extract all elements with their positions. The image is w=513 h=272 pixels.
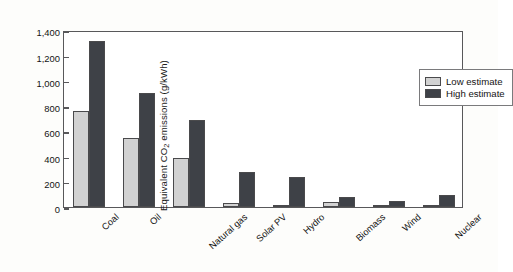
y-axis-tick-mark [64,208,69,209]
x-axis-label: Nuclear [453,212,484,241]
bar-low-estimate [123,138,139,207]
legend-label-low: Low estimate [446,76,503,87]
bar-high-estimate [89,41,105,207]
chart-legend: Low estimate High estimate [419,69,513,106]
legend-swatch-low-icon [425,77,441,86]
bar-group [423,32,455,207]
plot-area: Equivalent CO2 emissions (g/kWh) 0200400… [63,31,463,208]
y-axis-tick-label: 800 [44,103,64,114]
bar-group [173,32,205,207]
bar-group [73,32,105,207]
y-axis-tick: 400 [44,149,64,167]
bar-group [123,32,155,207]
y-axis-tick-label: 1,200 [37,53,64,64]
x-axis-label: Solar PV [254,212,288,244]
bars-layer [64,32,462,207]
bar-group [373,32,405,207]
y-axis-tick-label: 1,000 [37,78,64,89]
bar-high-estimate [189,120,205,207]
y-axis-tick-label: 1,400 [37,27,64,38]
y-axis-tick: 1,000 [37,74,64,92]
x-axis-label: Natural gas [207,212,249,251]
y-axis-tick-label: 600 [44,128,64,139]
bar-high-estimate [239,172,255,207]
legend-item-high: High estimate [425,88,505,99]
bar-low-estimate [73,111,89,207]
y-axis-tick: 0 [55,200,64,218]
x-axis-label: Biomass [354,212,387,243]
bar-high-estimate [289,177,305,207]
bar-low-estimate [273,205,289,207]
bar-low-estimate [423,205,439,207]
bar-high-estimate [139,93,155,207]
bar-high-estimate [439,195,455,207]
y-axis-tick: 600 [44,124,64,142]
bar-high-estimate [339,197,355,207]
y-axis-tick: 800 [44,99,64,117]
bar-low-estimate [323,202,339,207]
y-axis-tick: 200 [44,175,64,193]
bar-high-estimate [389,201,405,207]
y-axis-tick: 1,200 [37,48,64,66]
bar-group [273,32,305,207]
bar-group [223,32,255,207]
legend-swatch-high-icon [425,89,441,98]
legend-label-high: High estimate [446,88,505,99]
legend-item-low: Low estimate [425,76,505,87]
y-axis-tick: 1,400 [37,23,64,41]
x-axis-label: Coal [100,212,121,232]
y-axis-tick-label: 400 [44,154,64,165]
x-axis-label: Wind [400,212,422,234]
bar-low-estimate [173,158,189,207]
bar-low-estimate [223,203,239,207]
x-axis-label: Hydro [301,212,326,236]
y-axis-tick-label: 200 [44,179,64,190]
bar-group [323,32,355,207]
bar-low-estimate [373,205,389,207]
y-axis-tick-label: 0 [55,204,64,215]
